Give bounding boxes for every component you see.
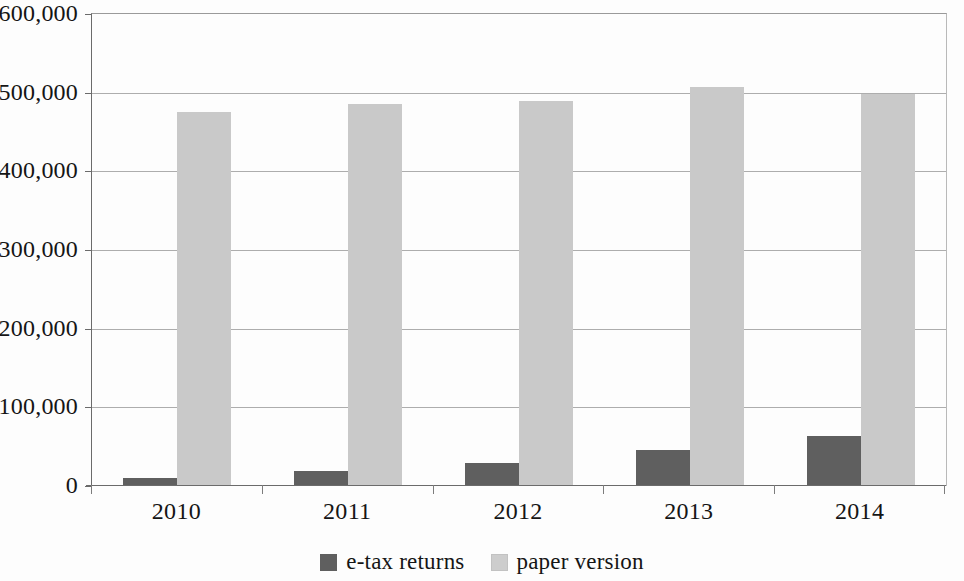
bar-groups xyxy=(92,14,946,486)
x-axis-labels: 2010 2011 2012 2013 2014 xyxy=(91,498,945,525)
bar-group-2012 xyxy=(434,14,605,486)
legend-item-etax-returns: e-tax returns xyxy=(320,549,464,575)
y-axis-labels: 600,000 500,000 400,000 300,000 200,000 … xyxy=(0,0,84,581)
y-tick-mark-400000 xyxy=(85,171,92,172)
y-tick-mark-200000 xyxy=(85,329,92,330)
bar-group-2011 xyxy=(263,14,434,486)
x-axis-category-label: 2010 xyxy=(91,498,262,525)
x-axis-tick-marks xyxy=(91,485,945,494)
bar-etax-2012 xyxy=(465,463,519,486)
bar-etax-2013 xyxy=(636,450,690,486)
bar-group-2010 xyxy=(92,14,263,486)
x-tick-mark xyxy=(262,485,433,494)
y-axis-tick-label: 600,000 xyxy=(0,0,78,27)
bar-group-2014 xyxy=(775,14,946,486)
y-axis-tick-label: 0 xyxy=(66,472,78,499)
legend-label: e-tax returns xyxy=(346,549,464,575)
bar-etax-2011 xyxy=(294,471,348,486)
legend-label: paper version xyxy=(517,549,644,575)
plot-area xyxy=(91,13,947,486)
legend-swatch-icon-paper-version xyxy=(491,554,508,571)
x-tick-mark xyxy=(603,485,774,494)
bar-paper-2012 xyxy=(519,101,573,486)
chart-legend: e-tax returns paper version xyxy=(0,549,964,575)
x-axis-category-label: 2013 xyxy=(603,498,774,525)
y-axis-tick-label: 100,000 xyxy=(0,393,78,420)
bar-group-2013 xyxy=(604,14,775,486)
y-tick-mark-600000 xyxy=(85,14,92,15)
y-axis-tick-label: 500,000 xyxy=(0,78,78,105)
x-axis-category-label: 2012 xyxy=(433,498,604,525)
legend-swatch-icon-etax-returns xyxy=(320,554,337,571)
y-axis-tick-label: 200,000 xyxy=(0,314,78,341)
y-tick-mark-500000 xyxy=(85,93,92,94)
x-tick-mark xyxy=(433,485,604,494)
x-axis-category-label: 2011 xyxy=(262,498,433,525)
legend-item-paper-version: paper version xyxy=(491,549,644,575)
y-tick-mark-100000 xyxy=(85,407,92,408)
x-tick-mark xyxy=(91,485,262,494)
bar-etax-2014 xyxy=(807,436,861,486)
y-axis-tick-label: 300,000 xyxy=(0,236,78,263)
y-tick-mark-300000 xyxy=(85,250,92,251)
bar-paper-2013 xyxy=(690,87,744,486)
bar-paper-2010 xyxy=(177,112,231,486)
bar-paper-2011 xyxy=(348,104,402,486)
x-axis-category-label: 2014 xyxy=(774,498,945,525)
y-axis-tick-label: 400,000 xyxy=(0,157,78,184)
bar-paper-2014 xyxy=(861,94,915,486)
bar-chart: 600,000 500,000 400,000 300,000 200,000 … xyxy=(0,0,964,581)
x-tick-mark xyxy=(774,485,945,494)
